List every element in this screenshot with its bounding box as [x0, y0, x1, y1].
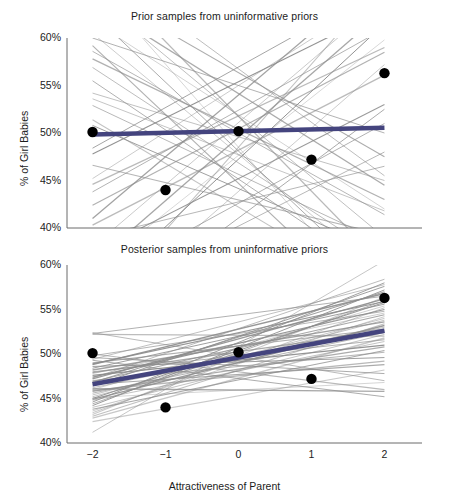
data-point — [379, 68, 389, 78]
panel-posterior-samples: Posterior samples from uninformative pri… — [0, 230, 449, 501]
sample-regression-line — [93, 33, 385, 248]
y-tick-label: 50% — [29, 347, 61, 359]
y-tick-label: 45% — [29, 392, 61, 404]
x-tick-label: 2 — [372, 448, 396, 460]
sample-regression-line — [93, 0, 385, 179]
sample-regression-line — [93, 38, 385, 133]
x-tick-label: 1 — [299, 448, 323, 460]
sample-regression-line — [93, 0, 385, 219]
y-tick-label: 55% — [29, 303, 61, 315]
data-point — [160, 402, 170, 412]
sample-regression-line — [93, 2, 385, 185]
y-tick-label: 45% — [29, 174, 61, 186]
y-tick-label: 60% — [29, 258, 61, 270]
y-tick-label: 50% — [29, 126, 61, 138]
y-tick-label: 40% — [29, 436, 61, 448]
data-point — [306, 374, 316, 384]
y-tick-label: 60% — [29, 31, 61, 43]
panel-prior-samples: Prior samples from uninformative priors … — [0, 0, 449, 248]
x-tick-label: 0 — [227, 448, 251, 460]
plot-area-prior — [0, 0, 449, 248]
data-point — [233, 347, 243, 357]
data-point — [306, 154, 316, 164]
data-point — [233, 126, 243, 136]
y-tick-label: 55% — [29, 79, 61, 91]
data-point — [379, 293, 389, 303]
x-tick-label: −2 — [81, 448, 105, 460]
plot-area-posterior — [0, 230, 449, 501]
sample-regression-line — [93, 165, 385, 234]
x-axis-label: Attractiveness of Parent — [0, 480, 449, 492]
sample-line-group — [93, 261, 385, 433]
sample-regression-line — [93, 75, 385, 225]
x-tick-label: −1 — [154, 448, 178, 460]
sample-line-group — [93, 0, 385, 248]
data-point — [87, 348, 97, 358]
data-point — [160, 185, 170, 195]
figure: Prior samples from uninformative priors … — [0, 0, 449, 501]
data-point — [87, 127, 97, 137]
